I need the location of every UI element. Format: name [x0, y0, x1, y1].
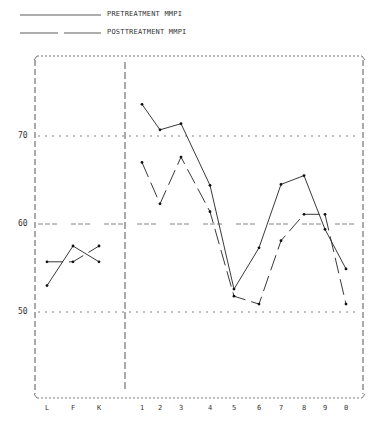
data-point	[303, 213, 306, 216]
data-point	[46, 284, 49, 287]
x-tick-1: 1	[136, 404, 148, 412]
data-point	[72, 245, 75, 248]
data-point	[345, 268, 348, 271]
data-point	[72, 260, 75, 263]
x-tick-4: 4	[204, 404, 216, 412]
data-point	[258, 246, 261, 249]
x-tick-F: F	[67, 404, 79, 412]
data-point	[280, 183, 283, 186]
series-posttreatment	[46, 156, 348, 306]
y-tick-50: 50	[18, 307, 28, 316]
data-point	[180, 156, 183, 159]
data-point	[280, 239, 283, 242]
data-point	[324, 228, 327, 231]
x-tick-5: 5	[228, 404, 240, 412]
data-point	[324, 213, 327, 216]
data-point	[98, 260, 101, 263]
data-point	[345, 303, 348, 306]
x-tick-3: 3	[175, 404, 187, 412]
data-point	[180, 122, 183, 125]
x-tick-0: 0	[340, 404, 352, 412]
data-point	[233, 288, 236, 291]
series-pretreatment	[46, 103, 348, 291]
legend-pre-label: PRETREATMENT MMPI	[107, 10, 182, 18]
x-tick-2: 2	[154, 404, 166, 412]
x-tick-9: 9	[319, 404, 331, 412]
chart-canvas	[0, 0, 379, 428]
data-point	[159, 128, 162, 131]
chart-frame	[34, 56, 365, 398]
data-point	[209, 184, 212, 187]
data-point	[159, 202, 162, 205]
legend-post-label: POSTTREATMENT MMPI	[107, 28, 186, 36]
data-point	[141, 161, 144, 164]
data-point	[46, 260, 49, 263]
data-point	[209, 210, 212, 213]
x-tick-7: 7	[275, 404, 287, 412]
x-tick-6: 6	[253, 404, 265, 412]
series-layer	[46, 103, 348, 306]
x-tick-L: L	[41, 404, 53, 412]
x-tick-K: K	[93, 404, 105, 412]
y-tick-60: 60	[18, 219, 28, 228]
data-point	[141, 103, 144, 106]
data-point	[258, 303, 261, 306]
x-tick-8: 8	[298, 404, 310, 412]
data-point	[98, 245, 101, 248]
y-tick-70: 70	[18, 131, 28, 140]
data-point	[233, 295, 236, 298]
data-point	[303, 174, 306, 177]
